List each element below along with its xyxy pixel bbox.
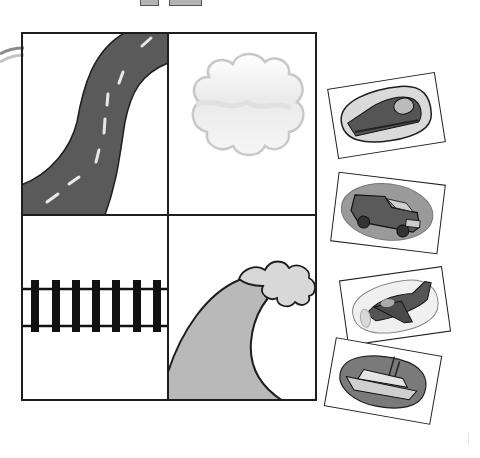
card-airplane[interactable] bbox=[339, 266, 451, 346]
railroad-cell[interactable] bbox=[21, 280, 168, 332]
card-boat[interactable] bbox=[324, 337, 443, 425]
airplane-icon bbox=[340, 267, 449, 343]
card-truck[interactable] bbox=[330, 172, 446, 255]
card-train[interactable] bbox=[327, 72, 446, 159]
wave-cell[interactable] bbox=[168, 262, 315, 402]
scan-mark bbox=[468, 432, 469, 444]
match-grid bbox=[21, 32, 317, 401]
top-tab-left bbox=[140, 0, 159, 6]
top-tab-right bbox=[169, 0, 202, 6]
truck-icon bbox=[331, 173, 443, 252]
boat-icon bbox=[325, 338, 440, 422]
cloud-cell[interactable] bbox=[193, 54, 304, 155]
train-icon bbox=[328, 73, 443, 157]
road-cell[interactable] bbox=[21, 32, 168, 215]
